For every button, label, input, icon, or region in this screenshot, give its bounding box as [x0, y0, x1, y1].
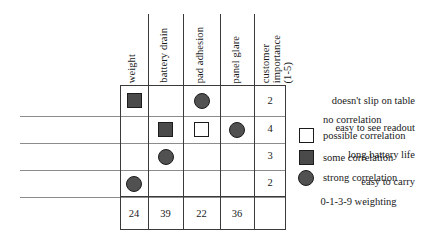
- no-correlation-symbol: [194, 149, 209, 164]
- strong-correlation-symbol: [158, 149, 174, 165]
- matrix-cell: [220, 85, 254, 116]
- column-header-label: battery drain: [158, 28, 170, 83]
- column-header-battery-drain: battery drain: [158, 14, 176, 83]
- total-value-weight: 24: [120, 208, 148, 220]
- some-correlation-icon: [296, 150, 316, 165]
- matrix-cell: [183, 143, 220, 170]
- legend-item-strong-correlation: strong correlation: [296, 170, 421, 186]
- no-correlation-symbol: [158, 93, 173, 108]
- possible-correlation-icon: [296, 128, 316, 143]
- column-header-pad-adhesion: pad adhesion: [194, 14, 212, 83]
- legend-label: no correlation: [323, 114, 382, 126]
- no-correlation-symbol: [230, 149, 245, 164]
- matrix-cell: [220, 143, 254, 170]
- importance-header-line-3: (1-5): [282, 62, 294, 84]
- column-header-label: pad adhesion: [194, 27, 206, 83]
- total-value-battery-drain: 39: [148, 208, 183, 220]
- legend-label: strong correlation: [323, 172, 397, 184]
- matrix-cell: [220, 170, 254, 197]
- column-header-label: weight: [126, 54, 138, 83]
- row-label-0: doesn't slip on table: [307, 95, 421, 107]
- correlation-matrix-figure: weight battery drain pad adhesion panel …: [0, 0, 421, 235]
- no-correlation-symbol: [127, 122, 142, 137]
- legend-item-possible-correlation: possible correlation: [296, 128, 421, 143]
- matrix-cell: [183, 116, 220, 143]
- weighting-note: 0-1-3-9 weighting: [296, 196, 421, 208]
- importance-value: 3: [254, 150, 286, 162]
- strong-correlation-symbol: [194, 93, 210, 109]
- some-correlation-symbol: [127, 93, 142, 108]
- importance-value: 2: [254, 177, 286, 189]
- matrix-cell: [148, 85, 183, 116]
- matrix-cell: [120, 170, 148, 197]
- no-correlation-symbol: [194, 176, 209, 191]
- matrix-cell: [120, 143, 148, 170]
- column-header-label: panel glare: [230, 36, 242, 83]
- importance-value: 4: [254, 123, 286, 135]
- importance-header-line-2: importance: [271, 35, 283, 83]
- matrix-cell: [183, 170, 220, 197]
- column-divider-4: [254, 14, 255, 230]
- matrix-cell: [148, 143, 183, 170]
- column-header-customer-importance: customer importance (1-5): [260, 14, 290, 83]
- no-correlation-symbol: [127, 149, 142, 164]
- matrix-cell: [148, 170, 183, 197]
- no-correlation-icon: [296, 112, 316, 127]
- importance-header-line-1: customer: [260, 44, 272, 83]
- legend-item-some-correlation: some correlation: [296, 150, 421, 165]
- matrix-cell: [220, 116, 254, 143]
- matrix-cell: [120, 85, 148, 116]
- strong-correlation-icon: [296, 170, 316, 186]
- matrix-cell: [183, 85, 220, 116]
- strong-correlation-symbol: [229, 122, 245, 138]
- legend-label: possible correlation: [323, 130, 406, 142]
- strong-correlation-symbol: [126, 176, 142, 192]
- no-correlation-symbol: [230, 93, 245, 108]
- importance-value: 2: [254, 95, 286, 107]
- total-value-pad-adhesion: 22: [183, 208, 220, 220]
- legend-item-no-correlation: no correlation: [296, 112, 421, 127]
- matrix-cell: [148, 116, 183, 143]
- matrix-cell: [120, 116, 148, 143]
- column-header-panel-glare: panel glare: [230, 14, 248, 83]
- some-correlation-symbol: [158, 122, 173, 137]
- possible-correlation-symbol: [194, 122, 209, 137]
- legend-label: some correlation: [323, 152, 393, 164]
- no-correlation-symbol: [158, 176, 173, 191]
- column-header-weight: weight: [126, 14, 144, 83]
- total-value-panel-glare: 36: [220, 208, 254, 220]
- no-correlation-symbol: [230, 176, 245, 191]
